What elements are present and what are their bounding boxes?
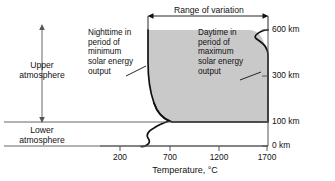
altitude-tick-100: 100 km xyxy=(272,117,299,126)
upper-atmosphere-label: Upper atmosphere xyxy=(4,60,80,80)
altitude-tick-300: 300 km xyxy=(272,71,299,80)
temperature-tick-1700: 1700 xyxy=(252,153,282,162)
altitude-tick-0: 0 km xyxy=(272,141,290,150)
temperature-tick-1200: 1200 xyxy=(204,153,234,162)
temperature-tick-700: 700 xyxy=(155,153,185,162)
temperature-axis xyxy=(100,146,268,151)
altitude-tick-600: 600 km xyxy=(272,25,299,34)
temperature-axis-title: Temperature, °C xyxy=(120,165,250,175)
temperature-tick-200: 200 xyxy=(105,153,135,162)
atmosphere-temperature-profile-figure: Range of variation Upper atmosphere Lowe… xyxy=(0,0,335,181)
nighttime-curve-annotation: Nighttime in period of minimum solar ene… xyxy=(88,28,150,77)
lower-atmosphere-label: Lower atmosphere xyxy=(4,125,80,145)
range-of-variation-label: Range of variation xyxy=(172,5,246,15)
daytime-curve-annotation: Daytime in period of maximum solar energ… xyxy=(198,28,262,77)
